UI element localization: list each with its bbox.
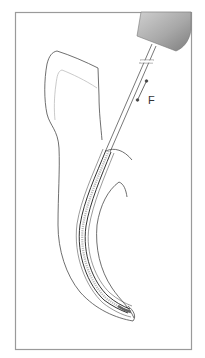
force-arrow-icon [136,80,148,102]
force-label: F [148,94,155,106]
root-curve-lower [97,182,127,225]
handpiece-head-icon [137,12,191,51]
root-outer-right [97,225,134,318]
pulp-crown-line [54,70,97,120]
diagram-figure: F [0,0,205,358]
